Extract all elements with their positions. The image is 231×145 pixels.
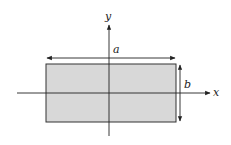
- y-axis-label: y: [104, 10, 112, 23]
- height-label: b: [184, 78, 191, 91]
- x-axis-label: x: [213, 86, 220, 99]
- width-label: a: [113, 43, 120, 56]
- diagram-canvas: y x a b: [0, 0, 231, 145]
